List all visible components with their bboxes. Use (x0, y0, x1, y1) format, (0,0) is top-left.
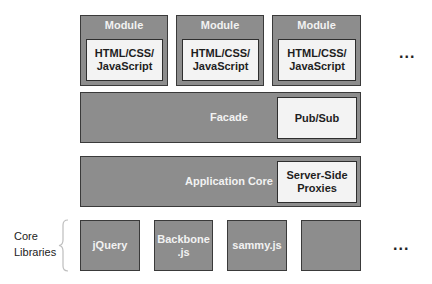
core-libraries-label: Core Libraries (14, 228, 56, 260)
server-side-proxies-box: Server-Side Proxies (277, 161, 357, 203)
library-sammy: sammy.js (227, 220, 287, 271)
module-content-line: HTML/CSS/ (191, 47, 250, 60)
module-title: Module (177, 19, 263, 32)
module-title: Module (81, 19, 167, 32)
module-content-line: JavaScript (289, 60, 345, 73)
proxies-line: Proxies (297, 182, 337, 195)
library-empty (301, 220, 361, 271)
facade-layer: Facade Pub/Sub (80, 92, 361, 143)
module-content-line: JavaScript (97, 60, 153, 73)
proxies-line: Server-Side (286, 169, 347, 182)
library-label: .js (177, 246, 189, 259)
library-label: Backbone (157, 233, 210, 246)
brace-icon (58, 219, 70, 272)
module-content-line: JavaScript (193, 60, 249, 73)
application-core-layer: Application Core Server-Side Proxies (80, 156, 361, 207)
module-box-3: Module HTML/CSS/ JavaScript (272, 15, 361, 86)
module-box-2: Module HTML/CSS/ JavaScript (176, 15, 264, 86)
module-title: Module (273, 19, 360, 32)
facade-label: Facade (181, 93, 277, 141)
module-content: HTML/CSS/ JavaScript (182, 39, 259, 81)
library-label: jQuery (93, 239, 128, 252)
library-jquery: jQuery (80, 220, 140, 271)
library-label: sammy.js (232, 239, 281, 252)
application-core-label: Application Core (181, 157, 277, 205)
libraries-ellipsis: ... (393, 236, 409, 254)
pubsub-box: Pub/Sub (277, 97, 357, 139)
module-content: HTML/CSS/ JavaScript (86, 39, 163, 81)
modules-ellipsis: ... (399, 44, 415, 62)
core-libraries-line: Libraries (14, 244, 56, 260)
module-content-line: HTML/CSS/ (287, 47, 346, 60)
module-box-1: Module HTML/CSS/ JavaScript (80, 15, 168, 86)
module-content: HTML/CSS/ JavaScript (278, 39, 356, 81)
library-backbone: Backbone .js (154, 220, 213, 271)
module-content-line: HTML/CSS/ (95, 47, 154, 60)
core-libraries-line: Core (14, 228, 56, 244)
